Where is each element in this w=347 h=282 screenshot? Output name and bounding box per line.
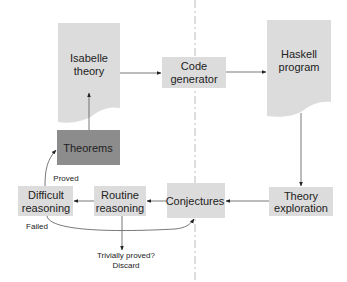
difficult-reasoning-line-2: reasoning [22,202,70,214]
haskell-program-line-1: Haskell [281,48,317,60]
code-generator-line-2: generator [170,73,217,85]
routine-reasoning-line-2: reasoning [96,202,144,214]
theory-exploration-line-2: exploration [274,202,328,214]
label-failed: Failed [26,222,48,231]
isabelle-theory-line-2: theory [74,65,105,77]
node-routine-reasoning[interactable]: Routine reasoning [94,186,146,216]
node-conjectures[interactable]: Conjectures [166,183,225,218]
conjectures-label: Conjectures [166,195,225,207]
theorems-label: Theorems [63,142,113,154]
label-proved: Proved [53,174,78,183]
flow-diagram: Isabelle theory Code generator Haskell p… [0,0,347,282]
code-generator-line-1: Code [181,60,207,72]
node-haskell-program[interactable]: Haskell program [267,20,331,117]
routine-reasoning-line-1: Routine [101,189,139,201]
label-discard: Discard [112,261,139,270]
theory-exploration-line-1: Theory [284,190,319,202]
node-code-generator[interactable]: Code generator [162,57,226,88]
node-difficult-reasoning[interactable]: Difficult reasoning [18,186,73,216]
isabelle-theory-line-1: Isabelle [70,52,108,64]
node-theory-exploration[interactable]: Theory exploration [269,187,333,216]
node-theorems[interactable]: Theorems [57,130,120,165]
label-trivially-proved: Trivially proved? [97,251,155,260]
haskell-program-line-2: program [279,61,320,73]
edge-difficult-to-conjectures [47,216,194,231]
difficult-reasoning-line-1: Difficult [28,189,64,201]
